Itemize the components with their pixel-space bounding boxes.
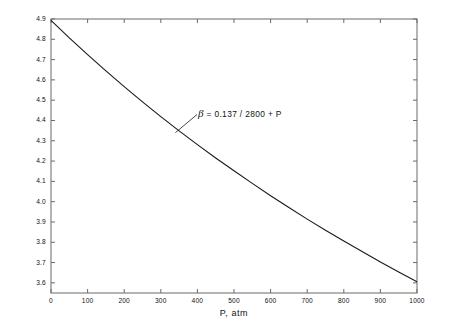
annotation-leader-line	[175, 115, 197, 133]
x-tick-label: 0	[34, 297, 68, 304]
x-tick-label: 500	[217, 297, 251, 304]
y-axis-ticks	[51, 19, 55, 283]
top-axis-ticks	[51, 19, 417, 23]
y-tick-label: 4.2	[20, 157, 46, 164]
y-tick-label: 4.8	[20, 35, 46, 42]
y-tick-label: 3.6	[20, 279, 46, 286]
y-tick-label: 4.7	[20, 56, 46, 63]
compressibility-chart-figure: 3.63.73.83.94.04.14.24.34.44.54.64.74.84…	[0, 0, 465, 330]
y-tick-label: 3.9	[20, 218, 46, 225]
x-tick-label: 100	[71, 297, 105, 304]
y-tick-label: 3.8	[20, 238, 46, 245]
x-axis-title: P, atm	[51, 308, 417, 318]
y-tick-label: 4.3	[20, 137, 46, 144]
data-curve-compressibility	[51, 20, 417, 281]
right-axis-ticks	[413, 19, 417, 283]
equation-text: = 0.137 / 2800 + P	[204, 109, 282, 119]
y-tick-label: 4.4	[20, 116, 46, 123]
x-tick-label: 900	[363, 297, 397, 304]
y-tick-label: 4.5	[20, 96, 46, 103]
x-tick-label: 300	[144, 297, 178, 304]
y-tick-label: 4.1	[20, 177, 46, 184]
x-tick-label: 400	[180, 297, 214, 304]
plot-canvas	[0, 0, 465, 330]
y-tick-label: 4.0	[20, 198, 46, 205]
x-tick-label: 600	[254, 297, 288, 304]
x-axis-ticks	[51, 289, 417, 293]
y-tick-label: 4.6	[20, 76, 46, 83]
y-tick-label: 3.7	[20, 259, 46, 266]
x-tick-label: 700	[290, 297, 324, 304]
equation-annotation: β = 0.137 / 2800 + P	[198, 107, 282, 119]
x-tick-label: 1000	[400, 297, 434, 304]
x-tick-label: 800	[327, 297, 361, 304]
y-tick-label: 4.9	[20, 15, 46, 22]
x-tick-label: 200	[107, 297, 141, 304]
